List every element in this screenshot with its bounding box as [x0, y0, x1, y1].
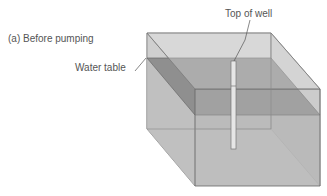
aquifer-block-diagram: [0, 0, 327, 196]
water-table-leader: [135, 58, 146, 71]
well-casing: [231, 61, 236, 149]
front-face: [195, 89, 320, 186]
